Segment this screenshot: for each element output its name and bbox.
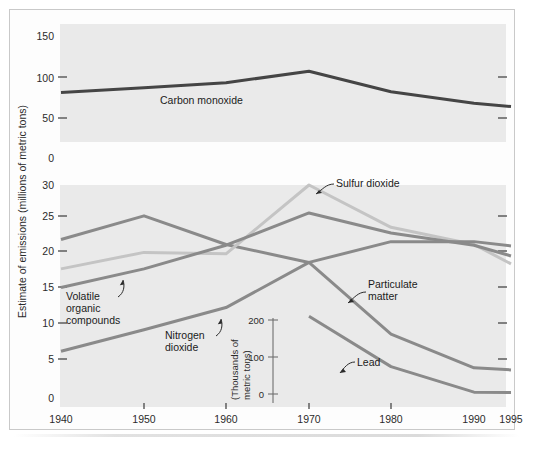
lower-ytick-10: 10 bbox=[42, 317, 54, 329]
upper-ytick-50: 50 bbox=[42, 112, 54, 124]
series-layer bbox=[61, 71, 511, 392]
upper-ytick-0: 0 bbox=[48, 152, 54, 164]
lower-ytick-5: 5 bbox=[48, 353, 54, 365]
lower-ytick-25: 25 bbox=[42, 210, 54, 222]
label-carbon-monoxide: Carbon monoxide bbox=[160, 94, 243, 106]
xtick-label-1950: 1950 bbox=[132, 413, 156, 425]
label-particulate-2: matter bbox=[368, 290, 398, 302]
plot-canvas: Estimate of emissions (millions of metri… bbox=[0, 0, 533, 455]
xtick-label-1990: 1990 bbox=[462, 413, 486, 425]
emissions-figure: Estimate of emissions (millions of metri… bbox=[0, 0, 533, 455]
leader-arrow-lead bbox=[340, 369, 346, 373]
xtick-label-1960: 1960 bbox=[214, 413, 238, 425]
inset-axis-title-line2: metric tons) bbox=[241, 350, 252, 400]
inset-ytick-0: 0 bbox=[259, 389, 264, 400]
xtick-label-1940: 1940 bbox=[49, 413, 73, 425]
inset-axis-title-line1: (Thousands of bbox=[229, 339, 240, 400]
lower-ytick-30: 30 bbox=[42, 179, 54, 191]
label-voc-3: compounds bbox=[66, 314, 120, 326]
lower-ytick-20: 20 bbox=[42, 245, 54, 257]
label-nox-2: dioxide bbox=[165, 341, 198, 353]
label-voc-1: Volatile bbox=[66, 290, 100, 302]
lower-ytick-0: 0 bbox=[48, 392, 54, 404]
page-edge-shadow bbox=[14, 434, 519, 437]
upper-ytick-100: 100 bbox=[36, 72, 54, 84]
label-sulfur-dioxide: Sulfur dioxide bbox=[336, 177, 400, 189]
upper-ytick-150: 150 bbox=[36, 30, 54, 42]
y-axis-title: Estimate of emissions (millions of metri… bbox=[16, 105, 28, 318]
label-nox-1: Nitrogen bbox=[165, 329, 205, 341]
series-line-lead bbox=[309, 316, 511, 392]
lower-ytick-15: 15 bbox=[42, 281, 54, 293]
label-lead: Lead bbox=[357, 356, 381, 368]
label-voc-2: organic bbox=[66, 302, 100, 314]
xtick-label-1970: 1970 bbox=[297, 413, 321, 425]
xtick-label-1980: 1980 bbox=[379, 413, 403, 425]
series-line-carbon-monoxide bbox=[61, 71, 511, 106]
xtick-label-1995: 1995 bbox=[499, 413, 523, 425]
lead-inset-axis: 200 100 0 (Thousands of metric tons) bbox=[229, 315, 278, 403]
label-particulate-1: Particulate bbox=[368, 278, 418, 290]
inset-ytick-200: 200 bbox=[248, 315, 264, 326]
